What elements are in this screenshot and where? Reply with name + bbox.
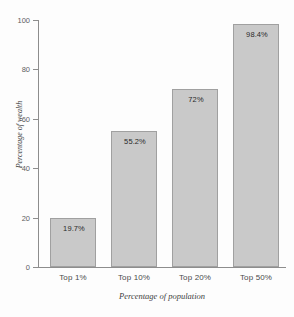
x-category-label-3: Top 50% [225, 273, 287, 282]
bar-top-50-percent[interactable]: 98.4% [233, 24, 279, 267]
y-tick-label-0: 0 [2, 263, 30, 272]
bar-top-20-percent[interactable]: 72% [172, 89, 218, 267]
bar-value-label-2: 72% [173, 95, 219, 104]
y-tick-label-80: 80 [2, 65, 30, 74]
x-category-label-2: Top 20% [164, 273, 226, 282]
bar-top-10-percent[interactable]: 55.2% [111, 131, 157, 267]
plot-area: 19.7% 55.2% 72% 98.4% [38, 20, 286, 267]
bar-value-label-3: 98.4% [234, 30, 280, 39]
bar-chart-figure: Percentage of wealth 0 20 40 60 80 100 1… [0, 0, 294, 317]
y-tick-label-100: 100 [2, 16, 30, 25]
x-category-label-0: Top 1% [42, 273, 104, 282]
x-axis-title: Percentage of population [38, 291, 286, 301]
bar-top-1-percent[interactable]: 19.7% [50, 218, 96, 267]
bar-value-label-0: 19.7% [51, 224, 97, 233]
y-tick-label-60: 60 [2, 115, 30, 124]
y-tick-label-40: 40 [2, 164, 30, 173]
y-tick-mark-0 [33, 267, 38, 268]
y-axis-title: Percentage of wealth [15, 70, 24, 200]
bar-value-label-1: 55.2% [112, 137, 158, 146]
y-tick-label-20: 20 [2, 214, 30, 223]
x-category-label-1: Top 10% [103, 273, 165, 282]
x-axis-line [38, 267, 286, 268]
